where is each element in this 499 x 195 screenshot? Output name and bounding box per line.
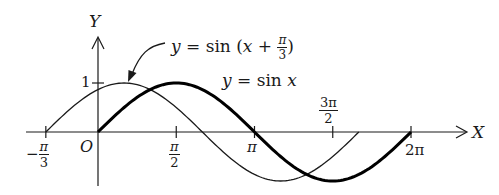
- label-y: y: [222, 70, 232, 90]
- y-tick-label-1: 1: [81, 75, 91, 90]
- fraction-denominator: 3: [279, 48, 287, 61]
- fraction-numerator: π: [169, 140, 180, 155]
- x-tick-label-three-pi-over-2: 3π2: [319, 96, 338, 125]
- label-x: x: [287, 70, 297, 90]
- label-sin-x: y = sin x: [222, 72, 297, 89]
- fraction-denominator: 3: [40, 155, 48, 169]
- y-axis-label: Y: [89, 13, 100, 30]
- label-x: x: [243, 36, 253, 56]
- fraction: π3: [39, 140, 50, 169]
- plot-area: [0, 0, 499, 195]
- x-tick-label-pi: π: [247, 140, 257, 155]
- fraction: 3π2: [319, 96, 338, 125]
- label-eq-sin: = sin: [232, 70, 288, 90]
- label-plus: +: [252, 36, 277, 56]
- label-close-paren: ): [287, 36, 294, 56]
- fraction-denominator: 2: [170, 155, 178, 169]
- label-sin-x-plus-pi-over-3: y = sin (x + π3): [171, 34, 294, 61]
- minus-sign: −: [26, 145, 39, 163]
- fraction-numerator: 3π: [319, 96, 338, 111]
- fraction-numerator: π: [39, 140, 50, 155]
- fraction-numerator: π: [277, 34, 287, 48]
- x-axis-label: X: [472, 124, 484, 141]
- sine-shift-diagram: Y X O 1 −π3 π2 π 3π2 2π y = sin (x + π3)…: [0, 0, 499, 195]
- fraction: π2: [169, 140, 180, 169]
- annotation-arrow: [132, 43, 165, 74]
- x-tick-label-neg-pi-over-3: −π3: [26, 140, 49, 169]
- fraction-denominator: 2: [324, 111, 332, 125]
- origin-label: O: [80, 139, 93, 155]
- label-eq-sin: = sin (: [181, 36, 243, 56]
- label-y: y: [171, 36, 181, 56]
- annotation-arrowhead-icon: [128, 70, 137, 82]
- x-tick-label-pi-over-2: π2: [169, 140, 180, 169]
- x-tick-label-two-pi: 2π: [405, 143, 424, 158]
- fraction-pi-over-3: π3: [277, 34, 287, 61]
